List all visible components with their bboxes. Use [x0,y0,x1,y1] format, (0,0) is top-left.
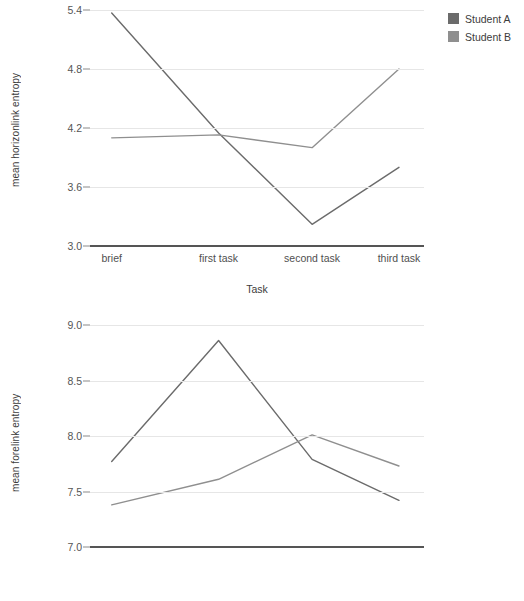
legend-label: Student B [465,31,511,43]
line-series [112,435,399,505]
y-axis-tick-labels: 9.08.58.07.57.0 [30,300,82,601]
legend-item[interactable]: Student A [448,10,511,27]
y-axis-tick-mark [83,491,90,492]
y-axis-tick-mark [83,128,90,129]
gridline [90,381,424,382]
y-axis-tick-label: 7.0 [36,541,82,553]
y-axis-tick-mark [83,325,90,326]
x-axis-title: Task [90,283,424,295]
line-series [112,69,399,148]
y-axis-tick-mark [83,380,90,381]
y-axis-tick-label: 8.5 [36,375,82,387]
y-axis-tick-mark [83,547,90,548]
x-axis-line [90,245,424,247]
gridline [90,69,424,70]
y-axis-tick-label: 7.5 [36,486,82,498]
plot-area [90,10,424,246]
y-axis-tick-mark [83,187,90,188]
legend: Student AStudent B [448,10,511,46]
y-axis-tick-label: 3.6 [36,181,82,193]
y-axis-tick-label: 4.8 [36,63,82,75]
chart-panel-horizonlink: mean horizonlink entropy 5.44.84.23.63.0… [0,0,524,300]
x-axis-tick-label: first task [199,252,238,264]
y-axis-title: mean forelink entropy [10,340,28,545]
y-axis-tick-label: 4.2 [36,122,82,134]
legend-item[interactable]: Student B [448,28,511,45]
chart-page: mean horizonlink entropy 5.44.84.23.63.0… [0,0,524,601]
x-axis-tick-label: second task [284,252,340,264]
x-axis-tick-label: brief [101,252,121,264]
gridline [90,128,424,129]
legend-swatch-icon [448,31,459,42]
legend-label: Student A [465,13,511,25]
gridline [90,325,424,326]
y-axis-tick-mark [83,436,90,437]
gridline [90,492,424,493]
y-axis-tick-labels: 5.44.84.23.63.0 [30,0,82,300]
y-axis-tick-mark [83,10,90,11]
y-axis-tick-label: 8.0 [36,430,82,442]
gridline [90,187,424,188]
y-axis-tick-label: 5.4 [36,4,82,16]
line-series [112,13,399,224]
gridline [90,10,424,11]
y-axis-title: mean horizonlink entropy [10,30,28,230]
x-axis-tick-label: third task [378,252,421,264]
y-axis-tick-label: 9.0 [36,319,82,331]
plot-area [90,325,424,547]
y-axis-tick-mark [83,246,90,247]
x-axis-line [90,546,424,548]
x-axis-tick-labels: brieffirst tasksecond taskthird task [90,252,424,268]
y-axis-tick-mark [83,69,90,70]
legend-swatch-icon [448,13,459,24]
gridline [90,436,424,437]
y-axis-tick-label: 3.0 [36,240,82,252]
line-series [112,341,399,501]
